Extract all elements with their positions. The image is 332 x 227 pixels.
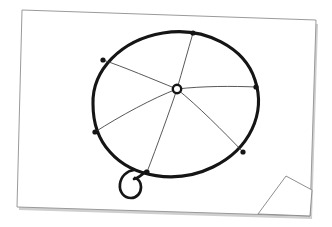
rim-point-lower-left [92, 129, 97, 134]
screenshot-canvas: Umbrella line drawing on a curled sheet … [0, 0, 332, 227]
umbrella-scene [0, 0, 332, 227]
paper-sheet [17, 10, 316, 216]
rim-point-upper-left [100, 57, 105, 62]
rim-point-lower-right [240, 149, 245, 154]
rim-point-top [190, 30, 195, 35]
umbrella-hub [173, 85, 181, 93]
rim-point-upper-right [253, 84, 258, 89]
